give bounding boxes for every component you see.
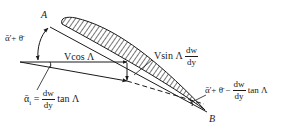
angle-b-prefix: ᾱ'+ θ̄ − [205, 85, 230, 95]
point-b-label: B [209, 114, 215, 124]
angle-b-label: ᾱ'+ θ̄ − dw dy tan Λ [205, 80, 268, 101]
vsin-frac-num: dw [185, 46, 198, 57]
alpha-i-fraction: dw dy [42, 89, 55, 110]
vsin-fraction: dw dy [185, 46, 198, 67]
angle-label-top: ᾱ'+ θ̄ [5, 34, 23, 43]
leader-alpha-i [37, 66, 50, 90]
vcos-label: Vcos Λ [64, 52, 94, 62]
alpha-i-tail: tan Λ [57, 93, 79, 104]
alpha-i-equals: = [34, 93, 40, 104]
vsin-prefix: Vsin Λ [154, 50, 182, 61]
angle-arc-induced [50, 62, 51, 68]
alpha-i-label: ᾱi = dw dy tan Λ [24, 89, 79, 110]
point-a-label: A [41, 10, 47, 20]
angle-b-fraction: dw dy [233, 80, 246, 101]
vsin-frac-den: dy [185, 57, 198, 67]
angle-b-frac-num: dw [233, 80, 246, 91]
alpha-i-frac-num: dw [42, 89, 55, 100]
alpha-i-subscript: i [29, 99, 31, 107]
vsin-label: Vsin Λ dw dy [154, 46, 198, 67]
angle-b-tail: tan Λ [248, 85, 268, 95]
alpha-i-frac-den: dy [42, 100, 55, 110]
resultant-vector [20, 62, 127, 81]
resultant-dashed-extension [127, 81, 204, 104]
angle-b-frac-den: dy [233, 91, 246, 101]
angle-arc-top [38, 28, 48, 60]
